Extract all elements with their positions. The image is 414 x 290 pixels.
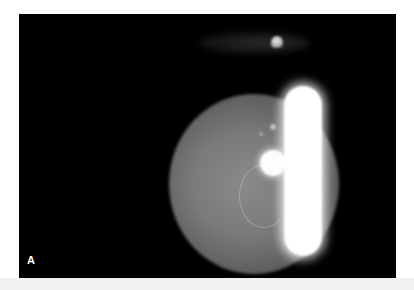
upper-eyelid-shadow xyxy=(199,32,309,54)
eyelid-light-reflex xyxy=(271,36,283,48)
bottom-margin-strip xyxy=(0,278,414,290)
panel-label: A xyxy=(27,254,35,266)
small-reflex-spot xyxy=(259,132,263,136)
corneal-reflex xyxy=(260,150,286,176)
slit-lamp-beam xyxy=(284,86,322,256)
small-reflex-spot xyxy=(270,124,276,130)
lens-opacity-arc xyxy=(239,164,289,228)
slit-lamp-photo: A xyxy=(19,14,396,278)
